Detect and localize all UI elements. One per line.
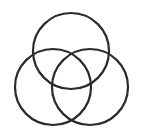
venn-diagram xyxy=(0,0,142,138)
venn-svg xyxy=(0,0,142,138)
